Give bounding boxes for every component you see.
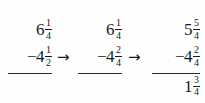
arrow-step-1-to-2-icon: → (57, 50, 70, 65)
minuend-row: 6 1 4 (106, 16, 122, 43)
subtrahend-whole-number: 4 (184, 48, 193, 65)
subtrahend-row: − 4 1 2 (27, 43, 52, 70)
math-figure-mixed-number-subtraction: 6 1 4 − 4 1 2 → 6 1 4 (0, 0, 205, 103)
subtrahend-numerator: 2 (115, 45, 122, 55)
result-denominator: 4 (193, 87, 200, 97)
minus-sign: − (27, 48, 36, 65)
subtrahend-fraction: 1 2 (45, 45, 52, 67)
minuend-fraction: 5 4 (193, 18, 200, 40)
minuend-row: 5 5 4 (184, 16, 200, 43)
minus-sign: − (97, 48, 106, 65)
subtrahend-whole-number: 4 (106, 48, 115, 65)
subtrahend-numerator: 1 (45, 45, 52, 55)
minuend-denominator: 4 (45, 31, 52, 41)
subtraction-column-step-1: 6 1 4 − 4 1 2 (6, 16, 52, 74)
minuend-whole-number: 6 (106, 21, 115, 38)
arrow-step-2-to-3-icon: → (128, 50, 141, 65)
subtrahend-whole-number: 4 (36, 48, 45, 65)
result-whole-number: 1 (184, 78, 193, 95)
subtrahend-fraction: 2 4 (115, 45, 122, 67)
result-numerator: 3 (193, 75, 200, 85)
subtraction-rule-line (78, 73, 122, 74)
minuend-numerator: 1 (115, 18, 122, 28)
subtrahend-fraction: 2 4 (193, 45, 200, 67)
minuend-whole-number: 6 (36, 21, 45, 38)
minuend-whole-number: 5 (184, 21, 193, 38)
subtrahend-denominator: 4 (193, 58, 200, 68)
subtrahend-row: − 4 2 4 (97, 43, 122, 70)
subtrahend-denominator: 4 (115, 58, 122, 68)
subtraction-column-step-2: 6 1 4 − 4 2 4 (76, 16, 122, 74)
subtrahend-numerator: 2 (193, 45, 200, 55)
result-fraction: 3 4 (193, 75, 200, 97)
subtraction-rule-line (8, 73, 52, 74)
minuend-numerator: 1 (45, 18, 52, 28)
subtraction-column-step-3: 5 5 4 − 4 2 4 1 3 4 (150, 16, 200, 98)
minuend-denominator: 4 (115, 31, 122, 41)
minus-sign: − (175, 48, 184, 65)
minuend-numerator: 5 (193, 18, 200, 28)
subtrahend-row: − 4 2 4 (175, 43, 200, 70)
minuend-denominator: 4 (193, 31, 200, 41)
minuend-row: 6 1 4 (36, 16, 52, 43)
result-row: 1 3 4 (184, 74, 200, 98)
minuend-fraction: 1 4 (45, 18, 52, 40)
subtrahend-denominator: 2 (45, 58, 52, 68)
minuend-fraction: 1 4 (115, 18, 122, 40)
